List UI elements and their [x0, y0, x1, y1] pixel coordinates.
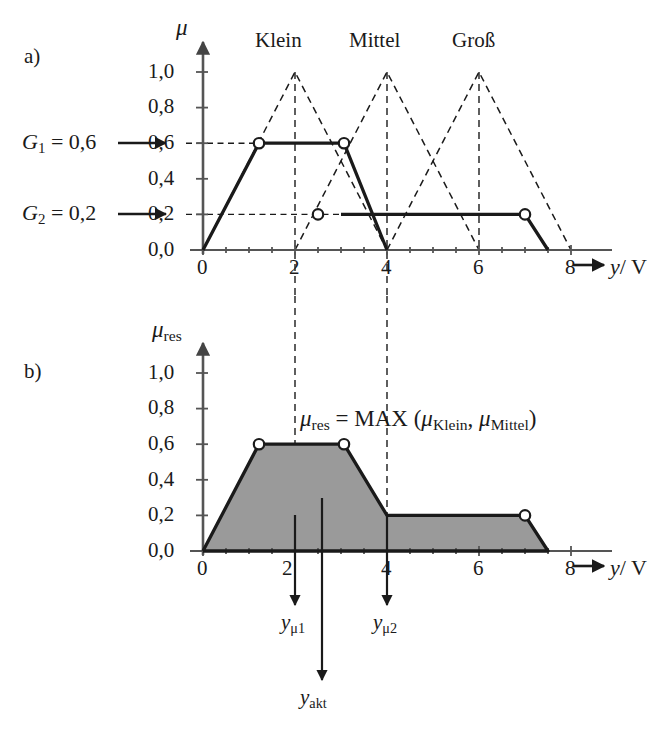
marker-mittel-left [313, 209, 323, 219]
panel-a-tag: a) [24, 46, 40, 67]
marker-b-tail-right [520, 510, 530, 520]
g2-symbol: G [22, 200, 38, 225]
panel-a-ytick-3: 0,6 [148, 132, 174, 153]
formula-arg1-sub: Klein [433, 416, 468, 433]
g2-value: = 0,2 [51, 200, 96, 225]
formula-eq: = MAX ( [336, 406, 422, 431]
panel-b-ytick-5: 0,2 [148, 504, 174, 525]
set-label-mittel: Mittel [349, 30, 400, 51]
panel-a-xtick-2: 2 [289, 257, 300, 278]
panel-b-ytick-3: 0,6 [148, 433, 174, 454]
panel-a-xtick-0: 0 [197, 257, 208, 278]
panel-a-xtick-4: 4 [381, 257, 392, 278]
g2-subscript: 2 [38, 211, 45, 227]
label-y-mu1-sub: μ1 [290, 620, 305, 636]
panel-b-x-axis-unit: / V [620, 555, 647, 580]
panel-b-ytick-1: 1,0 [148, 362, 174, 383]
panel-b-tag: b) [24, 361, 42, 382]
panel-b-ytick-4: 0,4 [148, 469, 174, 490]
panel-b-plot [190, 296, 612, 680]
formula-arg1-mu: μ [421, 406, 433, 431]
g2-label-group: G2 = 0,2 [22, 202, 96, 227]
panel-a-xtick-6: 6 [473, 257, 484, 278]
max-formula: μres = MAX (μKlein, μMittel) [300, 407, 537, 433]
formula-close: ) [529, 406, 537, 431]
panel-a-plot [118, 42, 612, 296]
panel-b-ytick-6: 0,0 [148, 540, 174, 561]
formula-comma: , [468, 406, 474, 431]
panel-a-x-axis-unit: / V [620, 254, 647, 279]
marker-b-plateau-right [339, 439, 349, 449]
marker-mittel-right [520, 209, 530, 219]
panel-b-xtick-0: 0 [197, 558, 208, 579]
panel-b-x-axis-name: y/ V [610, 557, 647, 579]
g1-subscript: 1 [38, 140, 45, 156]
panel-b-y-axis-mu: μ [152, 317, 164, 342]
panel-b-xtick-4: 4 [381, 558, 392, 579]
g1-symbol: G [22, 129, 38, 154]
label-y-akt-sub: akt [309, 695, 326, 711]
marker-klein-left [254, 138, 264, 148]
panel-a-xtick-8: 8 [565, 257, 576, 278]
g1-value: = 0,6 [51, 129, 96, 154]
formula-arg2-mu: μ [479, 406, 491, 431]
label-y-mu2-var: y [373, 610, 382, 634]
panel-b-y-axis-sub: res [164, 327, 182, 344]
formula-lhs-sub: res [312, 416, 330, 433]
panel-a-ytick-2: 0,8 [148, 96, 174, 117]
panel-b-xtick-8: 8 [565, 558, 576, 579]
marker-b-left [254, 439, 264, 449]
formula-arg2-sub: Mittel [491, 416, 529, 433]
panel-b-y-axis-symbol: μres [152, 318, 182, 344]
marker-klein-right [339, 138, 349, 148]
set-label-klein: Klein [255, 30, 302, 51]
panel-b-x-axis-var: y [610, 555, 620, 580]
panel-a-x-axis-var: y [610, 254, 620, 279]
label-y-mu1: yμ1 [281, 612, 305, 635]
panel-a-ytick-6: 0,0 [148, 239, 174, 260]
label-y-mu2-sub: μ2 [382, 620, 397, 636]
label-y-mu2: yμ2 [373, 612, 397, 635]
panel-a-ytick-1: 1,0 [148, 61, 174, 82]
figure-canvas [0, 0, 651, 730]
panel-b-xtick-6: 6 [473, 558, 484, 579]
set-label-gross: Groß [452, 30, 495, 51]
formula-lhs-mu: μ [300, 406, 312, 431]
panel-a-ytick-4: 0,4 [148, 168, 174, 189]
g1-label-group: G1 = 0,6 [22, 131, 96, 156]
label-y-mu1-var: y [281, 610, 290, 634]
fuzzy-inference-figure: a) b) μ Klein Mittel Groß 1,0 0,8 0,6 0,… [0, 0, 651, 730]
panel-b-ytick-2: 0,8 [148, 397, 174, 418]
panel-a-y-axis-symbol: μ [176, 16, 188, 39]
label-y-akt-var: y [300, 685, 309, 709]
label-y-akt: yakt [300, 687, 327, 710]
panel-a-x-axis-name: y/ V [610, 256, 647, 278]
panel-a-ytick-5: 0,2 [148, 203, 174, 224]
panel-b-xtick-2: 2 [282, 558, 293, 579]
